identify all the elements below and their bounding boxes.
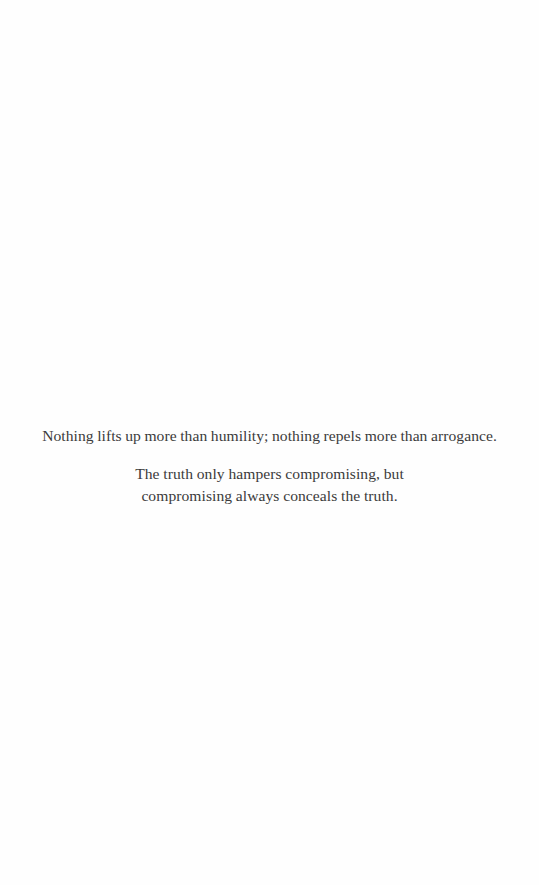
document-page: Nothing lifts up more than humility; not… — [0, 0, 539, 885]
quote-truth-line-1: The truth only hampers compromising, but — [0, 463, 539, 485]
quote-humility-line-1: Nothing lifts up more than humility; not… — [42, 427, 497, 444]
quote-humility: Nothing lifts up more than humility; not… — [0, 426, 539, 446]
quote-truth: The truth only hampers compromising, but… — [0, 463, 539, 506]
quote-truth-line-2: compromising always conceals the truth. — [0, 485, 539, 507]
